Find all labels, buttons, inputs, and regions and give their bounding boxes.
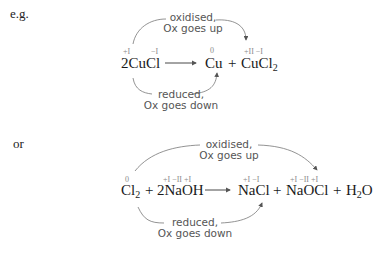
plus-sign-2: +	[273, 182, 281, 199]
reactant-naoh: 2NaOH	[157, 182, 204, 199]
h2o-h: H	[346, 182, 357, 198]
reduced-note-2-line2: Ox goes down	[150, 228, 240, 239]
product-naocl: NaOCl	[286, 182, 329, 199]
oxidised-note-2: oxidised, Ox goes up	[196, 139, 262, 161]
product-h2o: H2O	[346, 182, 373, 199]
eg-label: e.g.	[10, 6, 29, 22]
cucl2-main: CuCl	[241, 55, 273, 71]
plus-sign-1: +	[145, 182, 153, 199]
oxidised-note: oxidised, Ox goes up	[163, 12, 223, 34]
cl2-subscript: 2	[135, 189, 140, 200]
or-label: or	[13, 136, 24, 152]
product-nacl: NaCl	[238, 182, 270, 199]
reduced-note-2: reduced, Ox goes down	[150, 217, 240, 239]
reduced-note-line2: Ox goes down	[136, 100, 226, 111]
plus-sign: +	[228, 55, 236, 72]
reduced-note: reduced, Ox goes down	[136, 89, 226, 111]
h2o-o: O	[362, 182, 373, 198]
cl2-main: Cl	[121, 182, 135, 198]
ox-number-cu: 0	[210, 46, 214, 55]
reactant-cl2: Cl2	[121, 182, 140, 199]
product-cucl2: CuCl2	[241, 55, 278, 72]
oxidised-note-line2: Ox goes up	[163, 23, 223, 34]
product-cu: Cu	[205, 55, 223, 72]
cucl2-subscript: 2	[273, 62, 278, 73]
reactant-cucl: 2CuCl	[121, 55, 160, 72]
plus-sign-3: +	[333, 182, 341, 199]
oxidised-note-2-line2: Ox goes up	[196, 150, 262, 161]
